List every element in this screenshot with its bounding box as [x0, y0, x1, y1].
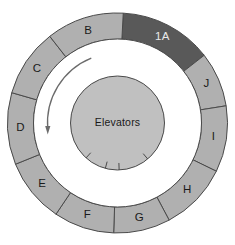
- segment-label-f: F: [84, 208, 91, 220]
- segment-label-c: C: [33, 62, 42, 74]
- elevator-core-group: Elevators: [71, 76, 165, 170]
- floor-plan-diagram: Elevators 1AJIHGFEDCB: [0, 0, 235, 245]
- segment-label-e: E: [38, 177, 46, 189]
- segment-label-h: H: [183, 183, 192, 195]
- segment-label-b: B: [84, 24, 92, 36]
- segment-label-j: J: [203, 77, 209, 89]
- segment-label-d: D: [16, 121, 25, 133]
- segment-label-i: I: [212, 130, 216, 142]
- segment-label-1a: 1A: [155, 30, 170, 42]
- floor-plan-svg: Elevators 1AJIHGFEDCB: [0, 0, 235, 245]
- elevator-core-label: Elevators: [95, 116, 141, 128]
- segment-label-g: G: [135, 211, 144, 223]
